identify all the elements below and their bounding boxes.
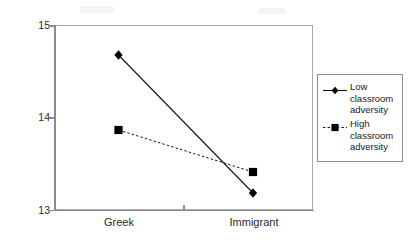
y-tick-label-15: 15 [28,20,50,30]
chart-figure: Academic achievement 15 14 13 Greek Immi… [0,0,410,245]
legend-marker-diamond-icon [322,82,348,93]
data-point-high-immigrant [249,168,257,176]
legend-label-high: High classroom adversity [348,118,400,153]
chart-plot [54,25,313,210]
x-tick-label-greek: Greek [86,216,152,228]
y-tick-label-13: 13 [28,205,50,215]
series-low-line [119,55,254,193]
x-tick-label-immigrant: Immigrant [218,216,290,228]
chart-legend: Low classroom adversity High classroom a… [317,74,403,162]
series-low-classroom-adversity [114,50,257,198]
legend-label-low: Low classroom adversity [348,81,400,116]
series-high-line [119,130,254,172]
series-high-classroom-adversity [114,126,257,176]
data-point-high-greek [114,126,122,134]
legend-item-high: High classroom adversity [322,118,400,153]
legend-item-low: Low classroom adversity [322,81,400,116]
scan-artifact [80,6,114,13]
legend-marker-square-icon [322,119,348,130]
scan-artifact [258,8,286,14]
y-tick-label-14: 14 [28,112,50,122]
